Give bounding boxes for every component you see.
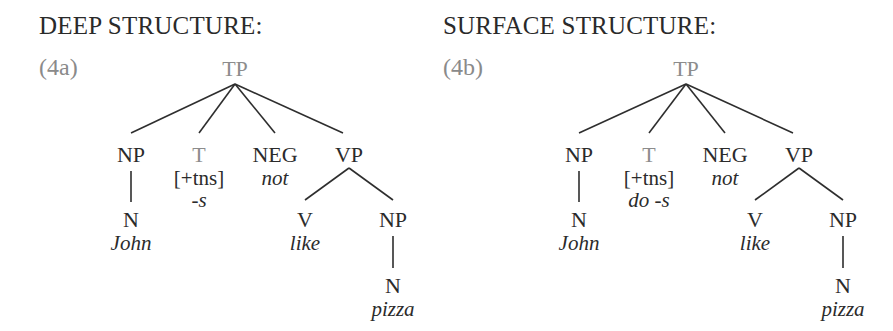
node-vp: VP [335, 143, 363, 167]
node-tp: TP [222, 57, 248, 81]
node-label: NEG [702, 142, 747, 167]
node-np-subject: NP [565, 143, 593, 167]
node-np-object: NP [379, 208, 407, 232]
node-label: N [571, 207, 587, 232]
node-label: T [192, 142, 205, 167]
node-tp: TP [673, 57, 699, 81]
node-label: NP [117, 142, 145, 167]
node-neg: NEG not [702, 143, 747, 189]
node-t: T [+tns] -s [174, 143, 224, 211]
word-tense: -s [174, 189, 224, 211]
word-john: John [111, 232, 152, 254]
node-n-object: N pizza [371, 274, 414, 320]
word-do-tense: do -s [624, 189, 674, 211]
node-n-subject: N John [559, 208, 600, 254]
node-neg: NEG not [252, 143, 297, 189]
word-pizza: pizza [821, 298, 864, 320]
node-label: V [747, 207, 763, 232]
panel-heading: SURFACE STRUCTURE: [443, 12, 716, 40]
tense-features: [+tns] [624, 167, 674, 189]
node-t: T [+tns] do -s [624, 143, 674, 211]
node-n-object: N pizza [821, 274, 864, 320]
node-np-subject: NP [117, 143, 145, 167]
node-label: V [297, 207, 313, 232]
word-like: like [290, 232, 320, 254]
node-vp: VP [785, 143, 813, 167]
node-label: N [385, 273, 401, 298]
node-v: V like [740, 208, 770, 254]
node-label: N [835, 273, 851, 298]
word-not: not [252, 167, 297, 189]
word-not: not [702, 167, 747, 189]
node-label: NP [565, 142, 593, 167]
node-label: NEG [252, 142, 297, 167]
node-v: V like [290, 208, 320, 254]
word-john: John [559, 232, 600, 254]
panel-heading: DEEP STRUCTURE: [39, 12, 263, 40]
tense-features: [+tns] [174, 167, 224, 189]
node-n-subject: N John [111, 208, 152, 254]
word-pizza: pizza [371, 298, 414, 320]
example-number: (4b) [443, 54, 483, 81]
node-label: N [123, 207, 139, 232]
node-np-object: NP [829, 208, 857, 232]
node-label: T [642, 142, 655, 167]
word-like: like [740, 232, 770, 254]
example-number: (4a) [39, 54, 78, 81]
